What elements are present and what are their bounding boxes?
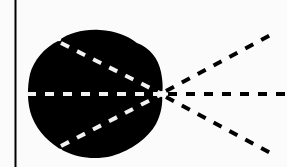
lower-notch xyxy=(58,149,62,153)
upper-notch xyxy=(57,37,61,41)
diagram-svg xyxy=(0,0,287,167)
outer-dashed-rays xyxy=(166,32,287,156)
outer-lower-ray xyxy=(166,97,276,156)
diagram-canvas xyxy=(0,0,287,167)
outer-upper-ray xyxy=(166,32,276,91)
apex-point xyxy=(159,91,165,97)
